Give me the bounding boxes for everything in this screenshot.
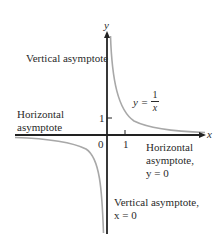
vertical-asymptote-bottom-line1: Vertical asymptote, <box>114 196 199 208</box>
y-axis-label: y <box>104 19 109 31</box>
function-numerator: 1 <box>153 90 158 100</box>
origin-label: 0 <box>98 138 104 150</box>
vertical-asymptote-top-label: Vertical asymptote <box>26 52 108 64</box>
curve-branch-positive <box>111 36 206 133</box>
y-axis-arrow-icon <box>104 31 110 38</box>
function-denominator: x <box>153 103 157 113</box>
horizontal-asymptote-left-line2: asymptote <box>17 121 62 133</box>
function-lhs: y = <box>133 96 148 108</box>
horizontal-asymptote-left-line1: Horizontal <box>17 108 64 120</box>
horizontal-asymptote-right-line2: asymptote, <box>146 154 194 166</box>
horizontal-asymptote-right-line1: Horizontal <box>146 141 193 153</box>
x-tick-label: 1 <box>123 138 129 150</box>
curve-branch-negative <box>15 138 104 234</box>
function-label: y = 1 x <box>133 90 159 113</box>
horizontal-asymptote-right-line3: y = 0 <box>146 167 169 179</box>
vertical-asymptote-bottom-line2: x = 0 <box>114 209 137 221</box>
x-axis-label: x <box>207 128 212 140</box>
y-tick-label: 1 <box>99 112 105 124</box>
